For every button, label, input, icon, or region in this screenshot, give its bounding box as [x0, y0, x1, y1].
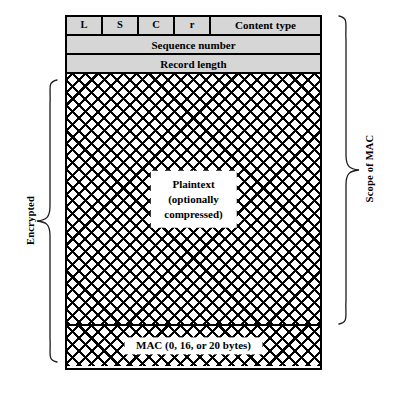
record-length-row: Record length: [67, 55, 320, 74]
record-header-row: L S C r Content type: [67, 17, 320, 36]
record-length-cell: Record length: [67, 55, 320, 72]
flag-cell-r: r: [175, 17, 211, 34]
flag-cell-s: S: [103, 17, 139, 34]
scope-of-mac-brace-icon: [337, 14, 363, 326]
flag-label-r: r: [190, 20, 195, 31]
mac-region: MAC (0, 16, or 20 bytes): [67, 326, 320, 366]
mac-label: MAC (0, 16, or 20 bytes): [124, 337, 263, 354]
content-type-label: Content type: [235, 20, 296, 31]
flag-cell-l: L: [67, 17, 103, 34]
flag-label-c: C: [152, 20, 160, 31]
tls-record: L S C r Content type Sequence number: [65, 15, 322, 370]
encrypted-label: Encrypted: [25, 185, 36, 257]
flag-label-s: S: [117, 20, 123, 31]
record-length-label: Record length: [160, 58, 226, 70]
plaintext-line-1: Plaintext: [164, 177, 222, 192]
sequence-number-row: Sequence number: [67, 36, 320, 55]
content-type-cell: Content type: [211, 17, 320, 34]
plaintext-payload-region: Plaintext (optionally compressed): [67, 74, 320, 326]
scope-of-mac-label: Scope of MAC: [364, 123, 375, 215]
tls-record-format-diagram: Encrypted Scope of MAC L S C r Content t…: [0, 0, 396, 395]
plaintext-line-2: (optionally: [164, 192, 222, 207]
flag-cell-c: C: [139, 17, 175, 34]
encrypted-brace-icon: [33, 78, 59, 364]
plaintext-line-3: compressed): [164, 206, 222, 221]
plaintext-label-box: Plaintext (optionally compressed): [150, 171, 236, 228]
sequence-number-label: Sequence number: [151, 39, 235, 51]
flag-label-l: L: [80, 20, 87, 31]
sequence-number-cell: Sequence number: [67, 36, 320, 53]
